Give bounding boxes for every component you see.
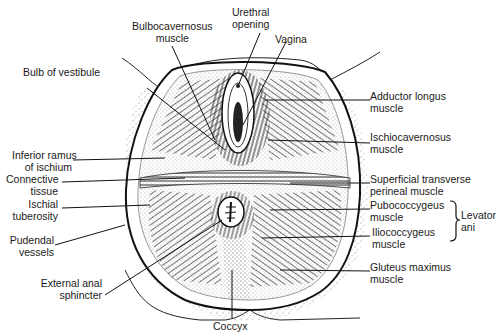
label-pudendal-vessels: Pudendal vessels <box>4 234 54 258</box>
vaginal-opening <box>233 102 243 142</box>
label-coccyx: Coccyx <box>213 320 247 332</box>
label-ischiocavernosus-muscle: Ischiocavernosus muscle <box>370 131 451 155</box>
label-urethral-opening: Urethral opening <box>232 6 269 30</box>
label-connective-tissue: Connective tissue <box>6 173 58 197</box>
label-iliococcygeus-muscle: Iliococcygeus muscle <box>372 226 435 250</box>
label-gluteus-maximus-muscle: Gluteus maximus muscle <box>370 261 451 285</box>
label-bulbocavernosus-muscle: Bulbocavernosus muscle <box>132 20 213 44</box>
label-external-anal-sphincter: External anal sphincter <box>30 277 102 301</box>
label-vagina: Vagina <box>275 33 307 45</box>
label-superficial-transverse-perineal-muscle: Superficial transverse perineal muscle <box>370 173 471 197</box>
label-bulb-of-vestibule: Bulb of vestibule <box>23 66 100 78</box>
label-levator-ani: Levator ani <box>461 209 496 233</box>
label-ischial-tuberosity: Ischial tuberosity <box>10 198 58 222</box>
levator-ani-bracket <box>450 201 460 241</box>
perineum-diagram: Bulbocavernosus muscle Urethral opening … <box>0 0 497 336</box>
label-adductor-longus-muscle: Adductor longus muscle <box>370 90 446 114</box>
label-inferior-ramus-of-ischium: Inferior ramus of ischium <box>12 149 72 173</box>
label-pubococcygeus-muscle: Pubococcygeus muscle <box>370 199 444 223</box>
